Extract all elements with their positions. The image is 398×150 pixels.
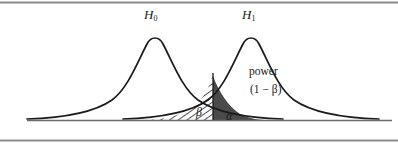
h1-label-subscript: 1	[251, 14, 255, 23]
h0-label-text: H	[144, 7, 153, 22]
power-diagram-figure: H0 H1 power (1 − β) β α	[0, 0, 398, 150]
alpha-label: α	[226, 110, 232, 122]
h0-curve	[27, 38, 283, 119]
h1-curve	[123, 38, 379, 119]
power-label: power	[249, 66, 278, 78]
h1-label: H1	[242, 8, 255, 23]
power-formula-label: (1 − β)	[250, 84, 282, 96]
h1-label-text: H	[242, 7, 251, 22]
power-diagram-svg	[0, 0, 398, 150]
beta-label: β	[196, 106, 202, 118]
h0-label-subscript: 0	[153, 14, 157, 23]
h0-label: H0	[144, 8, 157, 23]
